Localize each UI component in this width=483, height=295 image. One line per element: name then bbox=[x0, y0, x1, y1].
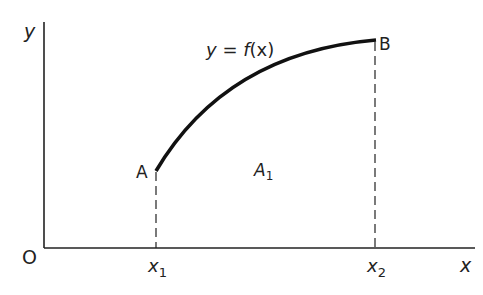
point-b-label: B bbox=[379, 34, 391, 54]
equation-y: y bbox=[205, 39, 217, 60]
diagram-svg: y x O A B y = f(x) A1 x1 x2 bbox=[0, 0, 483, 295]
tick-x1-base: x bbox=[147, 255, 159, 276]
origin-label: O bbox=[22, 246, 37, 268]
point-a-label: A bbox=[136, 162, 148, 182]
tick-label-x1: x1 bbox=[147, 255, 167, 280]
curve-equation-label: y = f(x) bbox=[205, 39, 274, 60]
area-label-sub: 1 bbox=[266, 169, 274, 183]
area-under-curve-diagram: y x O A B y = f(x) A1 x1 x2 bbox=[0, 0, 483, 295]
area-label: A1 bbox=[253, 160, 273, 183]
y-axis-label: y bbox=[23, 20, 36, 42]
x-axis-label: x bbox=[459, 254, 472, 276]
tick-x2-sub: 2 bbox=[378, 265, 386, 280]
equation-equals: = bbox=[217, 39, 244, 60]
equation-arg: (x) bbox=[250, 39, 275, 60]
tick-label-x2: x2 bbox=[366, 255, 386, 280]
tick-x1-sub: 1 bbox=[159, 265, 167, 280]
area-label-base: A bbox=[253, 160, 266, 180]
tick-x2-base: x bbox=[366, 255, 378, 276]
